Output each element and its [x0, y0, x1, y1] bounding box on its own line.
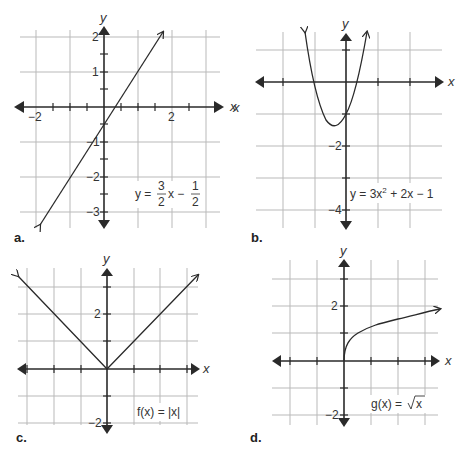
panel-d: y x 2 −2 g(x) = x d.: [250, 243, 452, 445]
y-axis-down-arrow-icon: [98, 220, 110, 229]
sqrt-graph-d: [344, 309, 440, 361]
x-axis-left-arrow-icon: [14, 101, 24, 113]
y-axis-up-arrow-icon: [338, 259, 350, 267]
y-tick-label: 1: [92, 65, 99, 79]
y-tick-label: −1: [86, 135, 100, 149]
equation-b: y = 3x2 + 2x − 1: [349, 183, 441, 203]
y-tick-label: 2: [94, 307, 101, 321]
y-axis-up-arrow-icon: [101, 268, 113, 276]
x-tick-label: 2: [168, 110, 175, 124]
y-axis-down-arrow-icon: [340, 221, 352, 230]
equation-c: f(x) = |x|: [136, 403, 186, 421]
grid-c: [18, 268, 198, 425]
panel-label-d: d.: [250, 430, 262, 445]
y-axis-down-arrow-icon: [338, 418, 350, 427]
svg-text:y = 3x2 + 2x − 1: y = 3x2 + 2x − 1: [350, 186, 434, 201]
panel-label-a: a.: [14, 230, 25, 245]
x-axis-label-d: x: [444, 353, 452, 368]
svg-text:f(x) = |x|: f(x) = |x|: [137, 405, 180, 419]
x-axis-left-arrow-icon: [17, 363, 26, 375]
y-axis-label-b: y: [341, 16, 350, 31]
graphs-figure: y x −2 2 2 1 −1 −2 −3 y = 3 2 x − 1 2 a.: [0, 0, 458, 453]
equation-a: y = 3 2 x − 1 2: [133, 179, 205, 209]
y-axis-label-c: y: [102, 251, 111, 266]
parabola-graph-b: [305, 32, 367, 126]
y-axis-label-a: y: [99, 10, 108, 25]
y-axis-up-arrow-icon: [340, 33, 352, 41]
panel-a: y x −2 2 2 1 −1 −2 −3 y = 3 2 x − 1 2 a.: [14, 10, 237, 245]
y-tick-label: −4: [328, 203, 342, 217]
x-axis-right-arrow-icon: [435, 76, 444, 88]
svg-text:2: 2: [192, 195, 199, 209]
y-tick-label: −3: [86, 205, 100, 219]
svg-text:3: 3: [158, 179, 165, 193]
y-tick-label: 2: [331, 299, 338, 313]
svg-text:x −: x −: [168, 187, 184, 201]
y-axis-up-arrow-icon: [98, 26, 110, 35]
x-axis-right-arrow-icon: [191, 363, 200, 375]
panel-label-b: b.: [251, 230, 263, 245]
x-tick-label: −2: [28, 110, 42, 124]
panel-b: y x x −2 −4 y = 3x2 + 2x − 1 b.: [232, 16, 455, 245]
panel-c: y x 2 −2 f(x) = |x| c.: [16, 251, 210, 445]
stray-x-label: x: [232, 100, 240, 115]
x-axis-left-arrow-icon: [272, 355, 281, 367]
ticks-d: [290, 279, 425, 415]
y-tick-label: −2: [325, 408, 339, 422]
equation-d: g(x) = x: [370, 395, 426, 413]
y-tick-label: 2: [92, 30, 99, 44]
svg-text:g(x) =: g(x) =: [371, 397, 402, 411]
y-axis-down-arrow-icon: [101, 425, 113, 434]
svg-text:2: 2: [158, 195, 165, 209]
y-tick-label: −2: [88, 416, 102, 430]
x-axis-label-b: x: [447, 74, 455, 89]
svg-text:y =: y =: [135, 187, 151, 201]
y-tick-label: −2: [328, 139, 342, 153]
x-axis-left-arrow-icon: [255, 76, 264, 88]
x-axis-label-c: x: [202, 361, 210, 376]
abs-value-graph-c: [18, 275, 198, 369]
y-axis-label-d: y: [339, 243, 348, 258]
x-axis-right-arrow-icon: [431, 355, 440, 367]
svg-text:1: 1: [192, 179, 199, 193]
y-tick-label: −2: [86, 170, 100, 184]
svg-text:x: x: [416, 397, 422, 411]
panel-label-c: c.: [16, 430, 27, 445]
x-axis-right-arrow-icon: [214, 101, 224, 113]
